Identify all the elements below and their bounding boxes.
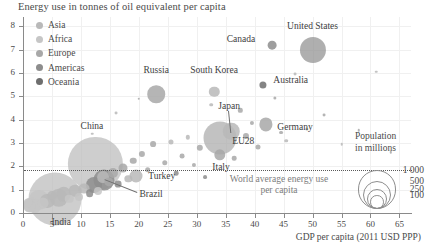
y-tick-label: 4 [1,114,15,124]
legend-item-label: Europe [48,48,75,58]
legend-bubble-icon [36,64,43,71]
y-tick-label: 0 [1,207,15,217]
y-tick-label: 8 [1,20,15,30]
point-label-eu28: EU28 [232,136,254,146]
y-tick-label: 7 [1,44,15,54]
x-tick-label: 35 [216,219,236,229]
y-tick-mark [19,50,23,51]
x-tick-label: 5 [42,219,62,229]
x-tick-mark [399,214,400,218]
legend-item-label: Africa [48,34,72,44]
x-tick-mark [370,214,371,218]
point-label-russia: Russia [144,65,169,75]
y-tick-label: 1 [1,184,15,194]
y-axis-line [23,17,24,214]
y-tick-label: 5 [1,90,15,100]
population-legend-label-100: 100 [380,190,424,200]
y-tick-mark [19,120,23,121]
point-label-south-korea: South Korea [190,65,238,75]
point-label-germany: Germany [277,122,312,132]
legend-item-asia[interactable]: Asia [36,18,84,32]
world-average-annotation: World average energy useper capita [214,174,344,197]
y-tick-label: 3 [1,137,15,147]
series-legend: AsiaAfricaEuropeAmericasOceania [36,18,84,89]
x-tick-mark [23,214,24,218]
point-label-china: China [81,121,104,131]
bubble-chart: Energy use in tonnes of oil equivalent p… [0,0,427,247]
x-tick-label: 20 [129,219,149,229]
legend-item-europe[interactable]: Europe [36,46,84,60]
point-label-japan: Japan [218,101,240,111]
point-label-turkey: Turkey [148,171,175,181]
point-label-australia: Australia [273,75,308,85]
y-tick-mark [19,73,23,74]
y-tick-mark [19,166,23,167]
x-tick-mark [313,214,314,218]
legend-item-americas[interactable]: Americas [36,61,84,75]
leader-line-japan [228,111,231,133]
legend-item-label: Oceania [48,77,79,87]
x-tick-mark [168,214,169,218]
x-axis-title: GDP per capita (2011 USD PPP) [296,232,421,242]
x-tick-label: 65 [389,219,409,229]
x-tick-mark [226,214,227,218]
population-legend-title-line1: Population [355,131,396,143]
x-tick-label: 15 [100,219,120,229]
x-tick-mark [52,214,53,218]
x-tick-label: 0 [13,219,33,229]
legend-bubble-icon [36,36,43,43]
x-tick-label: 45 [274,219,294,229]
x-tick-mark [284,214,285,218]
population-size-legend: Populationin millions 1 000500250100 [346,131,426,211]
y-tick-mark [19,96,23,97]
x-tick-mark [139,214,140,218]
y-tick-mark [19,190,23,191]
x-tick-label: 50 [303,219,323,229]
x-tick-label: 55 [332,219,352,229]
x-tick-mark [197,214,198,218]
population-legend-title: Populationin millions [355,131,396,154]
legend-item-oceania[interactable]: Oceania [36,75,84,89]
x-tick-label: 30 [187,219,207,229]
chart-title: Energy use in tonnes of oil equivalent p… [18,1,226,12]
x-tick-label: 40 [245,219,265,229]
y-tick-label: 2 [1,160,15,170]
y-tick-label: 6 [1,67,15,77]
x-tick-label: 60 [360,219,380,229]
point-label-united-states: United States [287,21,338,31]
x-tick-mark [255,214,256,218]
legend-bubble-icon [36,22,43,29]
y-tick-mark [19,143,23,144]
legend-item-label: Asia [48,20,65,30]
x-tick-label: 10 [71,219,91,229]
x-tick-mark [342,214,343,218]
legend-item-label: Americas [48,63,84,73]
population-legend-label-1000: 1 000 [380,165,424,175]
leader-line-brazil [104,179,137,193]
legend-bubble-icon [36,50,43,57]
world-average-annotation-line2: per capita [214,185,344,197]
population-legend-title-line2: in millions [355,143,396,155]
legend-item-africa[interactable]: Africa [36,32,84,46]
x-tick-label: 25 [158,219,178,229]
x-tick-mark [81,214,82,218]
legend-bubble-icon [36,78,43,85]
x-tick-mark [110,214,111,218]
y-tick-mark [19,26,23,27]
point-label-brazil: Brazil [140,189,163,199]
world-average-annotation-line1: World average energy use [214,174,344,186]
